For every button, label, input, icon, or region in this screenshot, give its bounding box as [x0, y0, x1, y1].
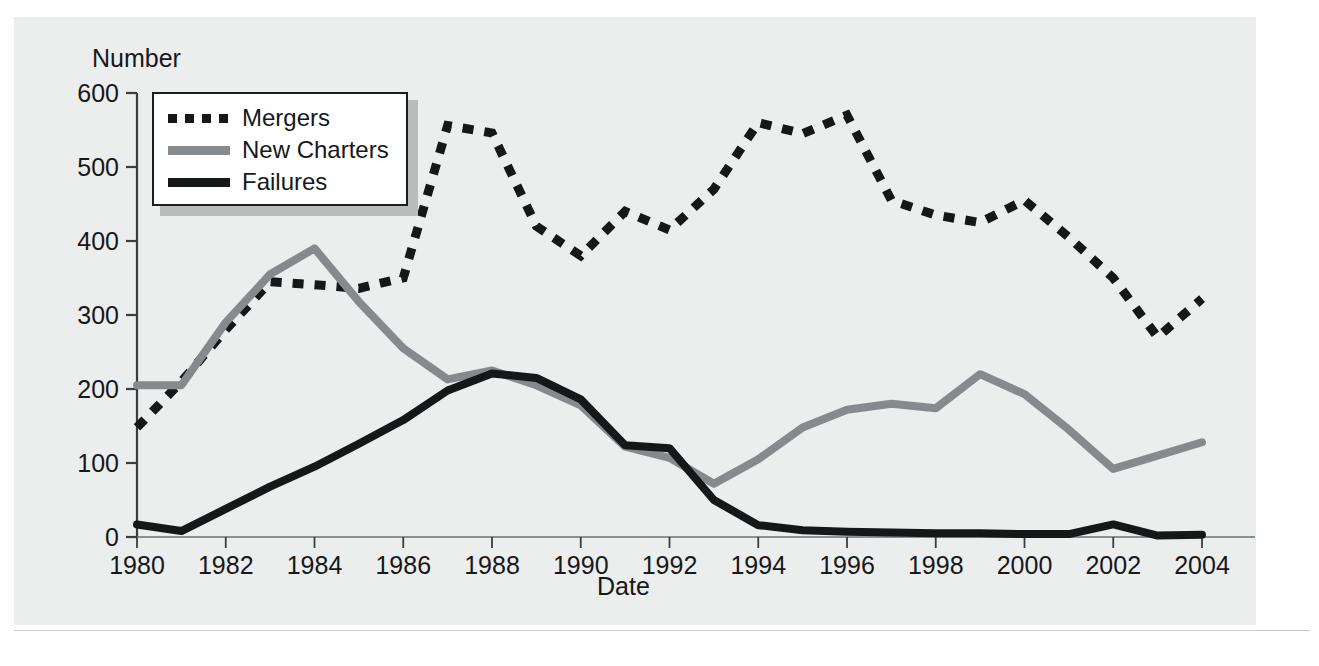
- legend-item-mergers: Mergers: [168, 102, 330, 134]
- x-tick-label: 1996: [819, 551, 875, 580]
- legend-label-new-charters: New Charters: [242, 138, 389, 162]
- x-tick-label: 2002: [1085, 551, 1141, 580]
- x-tick-label: 1986: [375, 551, 431, 580]
- legend-item-failures: Failures: [168, 166, 327, 198]
- y-tick-label: 0: [105, 523, 119, 552]
- x-tick-label: 1984: [287, 551, 343, 580]
- x-tick-label: 1990: [553, 551, 609, 580]
- x-tick-label: 1980: [109, 551, 165, 580]
- legend-swatch-mergers-icon: [168, 114, 230, 123]
- legend-label-mergers: Mergers: [242, 106, 330, 130]
- y-tick-label: 100: [77, 449, 119, 478]
- x-tick-label: 2004: [1174, 551, 1230, 580]
- y-tick-label: 500: [77, 153, 119, 182]
- y-axis-title: Number: [92, 44, 181, 73]
- x-tick-label: 1998: [908, 551, 964, 580]
- figure-root: Number Date 0100200300400500600 19801982…: [0, 0, 1319, 666]
- legend-swatch-new-charters-icon: [168, 146, 230, 155]
- y-tick-label: 600: [77, 79, 119, 108]
- x-tick-label: 1982: [198, 551, 254, 580]
- chart-legend: Mergers New Charters Failures: [152, 92, 408, 206]
- y-tick-label: 200: [77, 375, 119, 404]
- y-tick-label: 400: [77, 227, 119, 256]
- y-tick-label: 300: [77, 301, 119, 330]
- legend-swatch-failures-icon: [168, 178, 230, 187]
- x-tick-label: 1994: [730, 551, 786, 580]
- x-tick-label: 2000: [997, 551, 1053, 580]
- x-tick-label: 1988: [464, 551, 520, 580]
- legend-item-new-charters: New Charters: [168, 134, 389, 166]
- x-tick-label: 1992: [642, 551, 698, 580]
- legend-label-failures: Failures: [242, 170, 327, 194]
